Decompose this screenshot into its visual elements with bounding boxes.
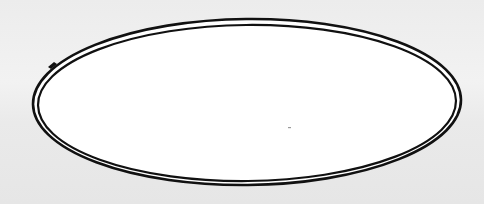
drawing-canvas: Hand-drawn double-outline ellipse — [0, 0, 484, 204]
ellipse-drawing — [0, 0, 484, 204]
speck — [288, 127, 291, 128]
